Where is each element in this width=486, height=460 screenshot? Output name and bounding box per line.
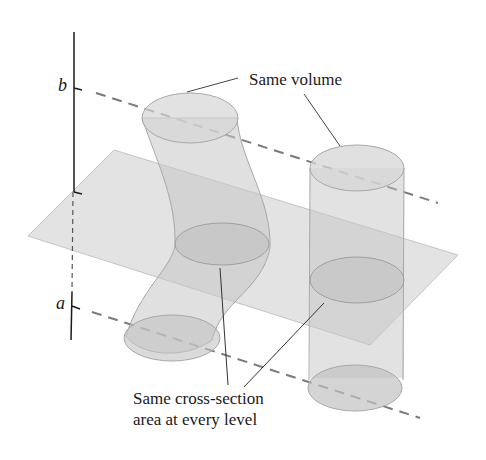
- tick-a: [72, 306, 80, 309]
- annotation-cross-section-line2: area at every level: [133, 410, 257, 429]
- tick-b: [74, 88, 82, 90]
- leader-line-volume-left: [187, 78, 238, 92]
- axis-label-a: a: [56, 294, 65, 313]
- annotation-same-volume: Same volume: [249, 70, 342, 89]
- annotation-cross-section-line1: Same cross-section: [133, 389, 264, 408]
- leader-line-volume-right: [304, 94, 340, 146]
- axis-line-lower: [71, 292, 72, 340]
- axis-label-b: b: [58, 76, 67, 95]
- right-cylinder: [308, 145, 404, 411]
